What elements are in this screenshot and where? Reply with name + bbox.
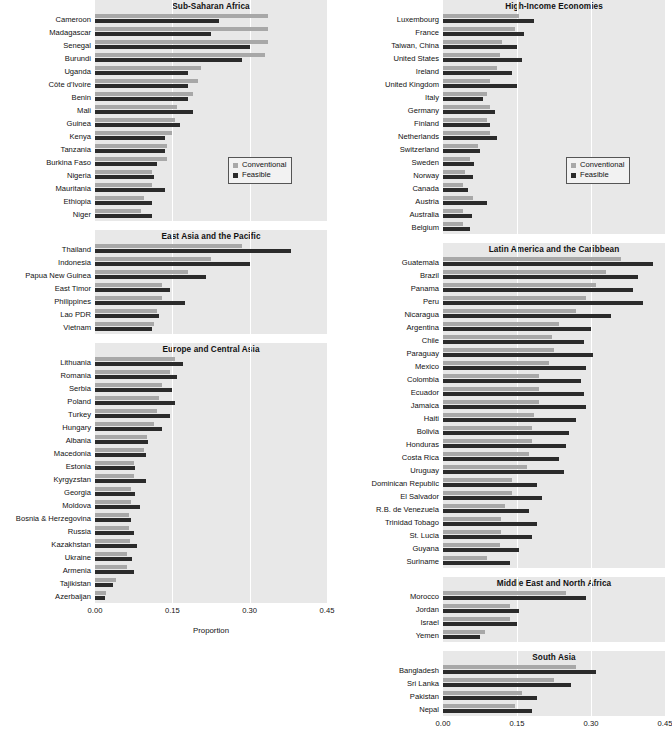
bar-feasible: [443, 327, 591, 331]
legend-label-feasible: Feasible: [242, 170, 271, 180]
category-label: Azerbaijan: [55, 590, 91, 603]
bar-feasible: [443, 635, 480, 639]
category-label: Uganda: [64, 65, 91, 78]
chart-row: Colombia: [443, 373, 665, 386]
bar-conventional: [443, 504, 505, 508]
chart-row: Ireland: [443, 65, 665, 78]
legend-item-feasible: Feasible: [571, 170, 624, 180]
right-axis: 0.000.150.300.45: [443, 716, 665, 730]
bar-feasible: [443, 275, 638, 279]
bar-conventional: [95, 500, 131, 504]
left-column: Sub-Saharan AfricaCameroonMadagascarSene…: [0, 0, 340, 635]
bar-conventional: [443, 387, 539, 391]
bar-conventional: [443, 257, 621, 261]
bar-conventional: [95, 435, 147, 439]
chart-row: Yemen: [443, 629, 665, 642]
category-label: Honduras: [406, 438, 439, 451]
bar-feasible: [443, 548, 519, 552]
chart-row: Romania: [95, 369, 327, 382]
category-label: Georgia: [64, 486, 91, 499]
bar-feasible: [443, 19, 534, 23]
category-label: St. Lucia: [409, 529, 439, 542]
category-label: Papua New Guinea: [25, 269, 91, 282]
bar-feasible: [443, 392, 584, 396]
bar-conventional: [443, 40, 502, 44]
bar-feasible: [443, 340, 584, 344]
category-label: Australia: [409, 208, 439, 221]
category-label: Lithuania: [60, 356, 91, 369]
chart-row: Papua New Guinea: [95, 269, 327, 282]
bar-conventional: [95, 183, 152, 187]
panel-title-band: Europe and Central Asia: [95, 343, 327, 356]
gridline: [591, 577, 592, 590]
bar-conventional: [95, 357, 175, 361]
chart-row: Hungary: [95, 421, 327, 434]
legend-label-feasible: Feasible: [580, 170, 609, 180]
panel-rows: CameroonMadagascarSenegalBurundiUgandaCô…: [95, 13, 327, 221]
chart-row: Peru: [443, 295, 665, 308]
chart-row: Germany: [443, 104, 665, 117]
panel-rows: LuxembourgFranceTaiwan, ChinaUnited Stat…: [443, 13, 665, 234]
category-label: Estonia: [66, 460, 91, 473]
chart-row: East Timor: [95, 282, 327, 295]
category-label: Jamaica: [411, 399, 439, 412]
bar-feasible: [95, 314, 159, 318]
chart-row: Guyana: [443, 542, 665, 555]
bar-feasible: [443, 201, 487, 205]
axis-tick-label: 0.15: [165, 606, 180, 615]
category-label: Vietnam: [63, 321, 91, 334]
axis-tick-label: 0.00: [436, 719, 451, 728]
panel-title-band: High-Income Economies: [443, 0, 665, 13]
chart-row: Ukraine: [95, 551, 327, 564]
bar-conventional: [95, 196, 144, 200]
bar-conventional: [95, 526, 129, 530]
category-label: Kenya: [69, 130, 91, 143]
category-label: Hungary: [62, 421, 91, 434]
bar-feasible: [95, 596, 105, 600]
bar-feasible: [95, 492, 135, 496]
bar-conventional: [443, 691, 522, 695]
bar-conventional: [95, 27, 268, 31]
bar-feasible: [443, 288, 633, 292]
panel-title-band: South Asia: [443, 651, 665, 664]
category-label: Kazakhstan: [51, 538, 91, 551]
chart-row: Kenya: [95, 130, 327, 143]
chart-row: Suriname: [443, 555, 665, 568]
bar-feasible: [443, 379, 581, 383]
gridline: [327, 230, 328, 243]
chart-row: Norway: [443, 169, 665, 182]
bar-conventional: [443, 157, 470, 161]
panel-sub-saharan-africa: Sub-Saharan AfricaCameroonMadagascarSene…: [0, 0, 340, 221]
bar-conventional: [443, 374, 539, 378]
bar-feasible: [95, 327, 152, 331]
bar-feasible: [95, 401, 175, 405]
category-label: Netherlands: [398, 130, 439, 143]
bar-conventional: [443, 14, 519, 18]
panel-rows: LithuaniaRomaniaSerbiaPolandTurkeyHungar…: [95, 356, 327, 603]
category-label: Madagascar: [49, 26, 91, 39]
bar-conventional: [95, 370, 170, 374]
bar-conventional: [443, 543, 500, 547]
chart-row: Vietnam: [95, 321, 327, 334]
gridline: [665, 651, 666, 664]
bar-feasible: [95, 149, 165, 153]
chart-row: Azerbaijan: [95, 590, 327, 603]
bar-conventional: [443, 309, 576, 313]
chart-row: Canada: [443, 182, 665, 195]
panel-plot-area: CameroonMadagascarSenegalBurundiUgandaCô…: [95, 13, 327, 221]
category-label: Morocco: [410, 590, 439, 603]
chart-row: Panama: [443, 282, 665, 295]
bar-conventional: [95, 591, 106, 595]
category-label: Ecuador: [411, 386, 439, 399]
bar-conventional: [443, 118, 487, 122]
bar-feasible: [95, 544, 137, 548]
bar-feasible: [95, 440, 148, 444]
bar-feasible: [443, 609, 519, 613]
bar-feasible: [443, 71, 512, 75]
chart-row: Bosnia & Herzegovina: [95, 512, 327, 525]
panel-latin-america-and-the-caribbean: Latin America and the CaribbeanGuatemala…: [340, 243, 665, 568]
bar-feasible: [443, 110, 495, 114]
bar-feasible: [95, 557, 132, 561]
chart-row: Georgia: [95, 486, 327, 499]
left-panels: Sub-Saharan AfricaCameroonMadagascarSene…: [0, 0, 340, 603]
